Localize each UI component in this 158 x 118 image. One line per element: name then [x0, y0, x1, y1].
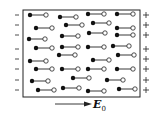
- negative-charge-dot-icon: [27, 37, 31, 41]
- negative-charge-dot-icon: [115, 12, 119, 16]
- negative-charge-dot-icon: [34, 46, 38, 50]
- negative-charge-dot-icon: [28, 59, 32, 63]
- negative-charge-dot-icon: [86, 67, 90, 71]
- negative-charge-dot-icon: [60, 45, 64, 49]
- positive-charge-circle-icon: [44, 59, 48, 63]
- positive-charge-circle-icon: [52, 88, 56, 92]
- negative-charge-dot-icon: [64, 23, 68, 27]
- positive-charge-circle-icon: [76, 45, 80, 49]
- negative-charge-dot-icon: [86, 45, 90, 49]
- positive-charge-circle-icon: [74, 15, 78, 19]
- negative-charge-dot-icon: [34, 26, 38, 30]
- positive-charge-circle-icon: [44, 13, 48, 17]
- negative-charge-dot-icon: [36, 88, 40, 92]
- negative-charge-dot-icon: [116, 53, 120, 57]
- positive-charge-circle-icon: [102, 67, 106, 71]
- positive-charge-circle-icon: [77, 86, 81, 90]
- negative-charge-dot-icon: [91, 58, 95, 62]
- positive-charge-circle-icon: [102, 12, 106, 16]
- negative-charge-dot-icon: [86, 89, 90, 93]
- positive-charge-circle-icon: [87, 76, 91, 80]
- negative-charge-dot-icon: [105, 78, 109, 82]
- positive-charge-circle-icon: [50, 26, 54, 30]
- positive-charge-circle-icon: [102, 45, 106, 49]
- positive-charge-circle-icon: [131, 33, 135, 37]
- positive-charge-circle-icon: [127, 44, 131, 48]
- negative-charge-dot-icon: [61, 86, 65, 90]
- positive-charge-circle-icon: [73, 53, 77, 57]
- positive-charge-circle-icon: [103, 31, 107, 35]
- positive-charge-circle-icon: [76, 34, 80, 38]
- negative-charge-dot-icon: [86, 12, 90, 16]
- negative-charge-dot-icon: [34, 67, 38, 71]
- positive-charge-circle-icon: [107, 58, 111, 62]
- negative-charge-dot-icon: [91, 21, 95, 25]
- negative-charge-dot-icon: [28, 13, 32, 17]
- negative-charge-dot-icon: [87, 31, 91, 35]
- positive-charge-circle-icon: [76, 67, 80, 71]
- negative-charge-dot-icon: [57, 53, 61, 57]
- negative-charge-dot-icon: [115, 33, 119, 37]
- positive-charge-circle-icon: [102, 89, 106, 93]
- positive-charge-circle-icon: [46, 79, 50, 83]
- positive-charge-circle-icon: [131, 26, 135, 30]
- positive-charge-circle-icon: [121, 78, 125, 82]
- positive-charge-circle-icon: [50, 67, 54, 71]
- positive-charge-circle-icon: [80, 23, 84, 27]
- negative-charge-dot-icon: [117, 87, 121, 91]
- negative-charge-dot-icon: [71, 76, 75, 80]
- polarized-dielectric-diagram: [0, 0, 158, 118]
- negative-charge-dot-icon: [60, 67, 64, 71]
- negative-charge-dot-icon: [30, 79, 34, 83]
- negative-charge-dot-icon: [115, 67, 119, 71]
- negative-charge-dot-icon: [115, 26, 119, 30]
- negative-charge-dot-icon: [111, 44, 115, 48]
- negative-charge-dot-icon: [60, 34, 64, 38]
- positive-charge-circle-icon: [107, 21, 111, 25]
- positive-charge-circle-icon: [43, 37, 47, 41]
- field-arrow-head-icon: [84, 102, 92, 107]
- positive-charge-circle-icon: [133, 87, 137, 91]
- positive-charge-circle-icon: [131, 12, 135, 16]
- positive-charge-circle-icon: [131, 67, 135, 71]
- positive-charge-circle-icon: [50, 46, 54, 50]
- field-label: E0: [93, 98, 106, 113]
- negative-charge-dot-icon: [58, 15, 62, 19]
- positive-charge-circle-icon: [132, 53, 136, 57]
